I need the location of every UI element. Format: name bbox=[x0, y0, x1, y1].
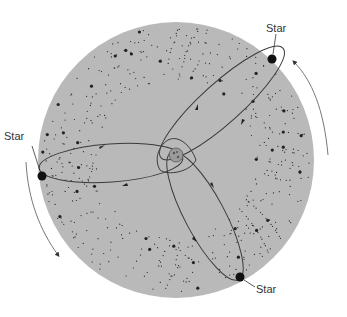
star-label-bottom-right: Star bbox=[256, 283, 276, 295]
star-left bbox=[38, 172, 47, 181]
star-top-right bbox=[268, 55, 277, 64]
star-bottom-right bbox=[236, 273, 245, 282]
star-label-top-right: Star bbox=[266, 22, 286, 34]
star-label-left: Star bbox=[4, 130, 24, 142]
galactic-center-diagram bbox=[0, 0, 347, 317]
central-black-hole bbox=[169, 148, 183, 162]
